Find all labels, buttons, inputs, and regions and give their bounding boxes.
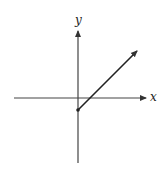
coordinate-plane <box>0 0 166 172</box>
ray-start-dot <box>76 108 80 112</box>
x-axis-label: x <box>150 91 157 103</box>
y-axis-label: y <box>75 14 82 26</box>
ray-line <box>78 51 137 110</box>
